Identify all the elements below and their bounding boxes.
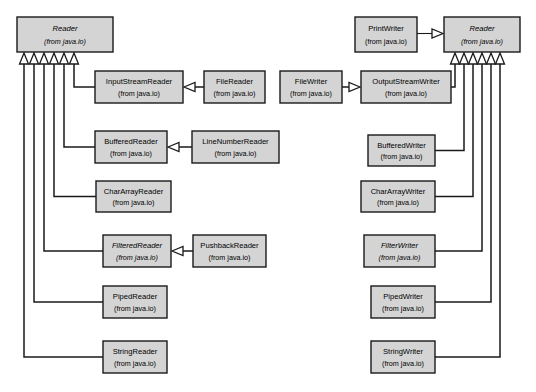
- generalization-arrowhead-filter-writer: [478, 53, 487, 64]
- class-package-label: (from java.io): [385, 89, 427, 98]
- class-box-frame: [371, 341, 435, 373]
- class-name-label: OutputStreamWriter: [372, 77, 440, 86]
- class-box-pushback-reader[interactable]: PushbackReader(from java.io): [193, 235, 266, 267]
- class-package-label: (from java.io): [116, 253, 158, 262]
- class-box-frame: [103, 341, 167, 373]
- class-box-file-reader[interactable]: FileReader(from java.io): [204, 71, 265, 103]
- class-package-label: (from java.io): [44, 37, 86, 46]
- class-box-frame: [95, 71, 183, 103]
- class-name-label: FileWriter: [295, 77, 328, 86]
- class-package-label: (from java.io): [114, 304, 156, 313]
- class-box-frame: [96, 181, 171, 212]
- class-box-piped-reader[interactable]: PipedReader(from java.io): [103, 286, 167, 318]
- class-name-label: InputStreamReader: [106, 77, 173, 86]
- class-box-frame: [192, 131, 279, 163]
- generalization-arrowhead-output-stream-writer: [451, 53, 460, 64]
- class-name-label: PrintWriter: [368, 24, 404, 33]
- class-box-reader-right[interactable]: Reader(from java.io): [444, 17, 520, 52]
- generalization-arrowhead-string-writer: [496, 53, 505, 64]
- class-box-line-number-reader[interactable]: LineNumberReader(from java.io): [192, 131, 279, 163]
- class-package-label: (from java.io): [110, 149, 152, 158]
- class-package-label: (from java.io): [365, 37, 407, 46]
- class-box-reader-left[interactable]: Reader(from java.io): [17, 17, 113, 52]
- class-name-label: Reader: [53, 24, 78, 33]
- class-box-string-reader[interactable]: StringReader(from java.io): [103, 341, 167, 373]
- class-box-output-stream-writer[interactable]: OutputStreamWriter(from java.io): [361, 71, 451, 103]
- class-name-label: FilterWriter: [381, 241, 419, 250]
- generalization-arrowhead-pushback-reader: [172, 247, 183, 256]
- generalization-arrowhead-file-reader: [184, 83, 195, 92]
- generalization-arrowhead-char-array-writer: [469, 53, 478, 64]
- generalization-arrowhead-char-array-reader: [50, 53, 59, 64]
- generalization-arrowhead-piped-writer: [487, 53, 496, 64]
- class-name-label: PushbackReader: [200, 241, 259, 250]
- class-box-layer: Reader(from java.io)InputStreamReader(fr…: [17, 17, 520, 373]
- class-name-label: FilteredReader: [112, 241, 163, 250]
- class-package-label: (from java.io): [290, 89, 332, 98]
- class-package-label: (from java.io): [209, 253, 251, 262]
- class-box-frame: [364, 235, 435, 267]
- class-name-label: LineNumberReader: [202, 137, 269, 146]
- generalization-arrowhead-buffered-writer: [460, 53, 469, 64]
- class-box-filtered-reader[interactable]: FilteredReader(from java.io): [103, 235, 171, 267]
- class-box-frame: [280, 71, 342, 103]
- class-name-label: Reader: [470, 24, 495, 33]
- class-package-label: (from java.io): [382, 304, 424, 313]
- class-box-buffered-writer[interactable]: BufferedWriter(from java.io): [368, 135, 435, 166]
- class-box-frame: [103, 235, 171, 267]
- uml-canvas: Reader(from java.io)InputStreamReader(fr…: [0, 0, 536, 392]
- class-package-label: (from java.io): [214, 89, 256, 98]
- class-box-frame: [355, 17, 417, 52]
- class-package-label: (from java.io): [114, 359, 156, 368]
- class-package-label: (from java.io): [461, 37, 503, 46]
- class-box-frame: [17, 17, 113, 52]
- class-box-frame: [193, 235, 266, 267]
- generalization-arrowhead-print-writer: [432, 29, 443, 38]
- generalization-arrowhead-filtered-reader: [40, 53, 49, 64]
- generalization-line-input-stream-reader: [74, 64, 95, 87]
- class-box-frame: [361, 181, 435, 212]
- generalization-line-buffered-reader: [64, 64, 95, 147]
- generalization-arrowhead-string-reader: [20, 53, 29, 64]
- class-box-char-array-reader[interactable]: CharArrayReader(from java.io): [96, 181, 171, 212]
- generalization-arrowhead-line-number-reader: [168, 143, 179, 152]
- class-package-label: (from java.io): [377, 198, 419, 207]
- class-box-frame: [371, 286, 435, 318]
- class-box-file-writer[interactable]: FileWriter(from java.io): [280, 71, 342, 103]
- class-name-label: BufferedReader: [104, 137, 158, 146]
- class-name-label: PipedWriter: [383, 292, 423, 301]
- class-name-label: CharArrayWriter: [371, 187, 426, 196]
- class-name-label: PipedReader: [113, 292, 158, 301]
- generalization-arrowhead-input-stream-reader: [70, 53, 79, 64]
- class-box-frame: [204, 71, 265, 103]
- class-name-label: StringReader: [113, 347, 158, 356]
- class-box-filter-writer[interactable]: FilterWriter(from java.io): [364, 235, 435, 267]
- generalization-arrowhead-file-writer: [349, 83, 360, 92]
- class-package-label: (from java.io): [215, 149, 257, 158]
- generalization-arrowhead-piped-reader: [30, 53, 39, 64]
- class-package-label: (from java.io): [381, 152, 423, 161]
- class-package-label: (from java.io): [382, 359, 424, 368]
- class-package-label: (from java.io): [379, 253, 421, 262]
- class-box-frame: [103, 286, 167, 318]
- class-name-label: BufferedWriter: [377, 141, 426, 150]
- class-box-string-writer[interactable]: StringWriter(from java.io): [371, 341, 435, 373]
- generalization-line-filtered-reader: [44, 64, 103, 251]
- class-name-label: FileReader: [216, 77, 254, 86]
- class-box-buffered-reader[interactable]: BufferedReader(from java.io): [95, 131, 167, 163]
- class-box-frame: [444, 17, 520, 52]
- class-box-char-array-writer[interactable]: CharArrayWriter(from java.io): [361, 181, 435, 212]
- class-box-piped-writer[interactable]: PipedWriter(from java.io): [371, 286, 435, 318]
- uml-class-diagram: Reader(from java.io)InputStreamReader(fr…: [0, 0, 536, 392]
- class-box-input-stream-reader[interactable]: InputStreamReader(from java.io): [95, 71, 183, 103]
- class-package-label: (from java.io): [113, 198, 155, 207]
- class-package-label: (from java.io): [118, 89, 160, 98]
- class-name-label: StringWriter: [383, 347, 423, 356]
- class-box-frame: [368, 135, 435, 166]
- class-name-label: CharArrayReader: [104, 187, 164, 196]
- class-box-frame: [95, 131, 167, 163]
- generalization-line-char-array-reader: [54, 64, 96, 197]
- generalization-arrowhead-buffered-reader: [60, 53, 69, 64]
- class-box-print-writer[interactable]: PrintWriter(from java.io): [355, 17, 417, 52]
- class-box-frame: [361, 71, 451, 103]
